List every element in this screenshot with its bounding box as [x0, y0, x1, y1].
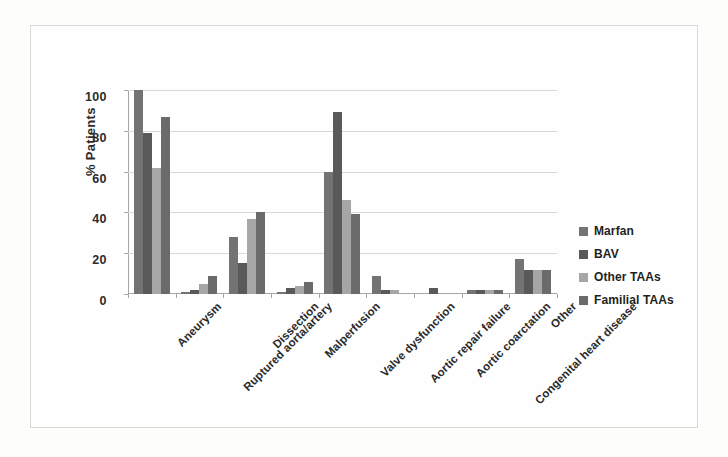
bar — [333, 112, 342, 294]
bar — [190, 290, 199, 294]
bar-group — [176, 90, 224, 294]
figure-canvas: % Patients 020406080100 AneurysmRuptured… — [0, 0, 728, 457]
legend-item: Familial TAAs — [579, 293, 674, 307]
bar-group — [128, 90, 176, 294]
bar — [494, 290, 503, 294]
bar — [372, 276, 381, 294]
bar — [429, 288, 438, 294]
bar — [485, 290, 494, 294]
plot-area: 020406080100 — [128, 90, 557, 294]
x-tick-label: Aortic coarctation — [473, 300, 552, 379]
legend-swatch-icon — [579, 273, 588, 282]
bar — [247, 219, 256, 294]
legend-swatch-icon — [579, 250, 588, 259]
legend-swatch-icon — [579, 227, 588, 236]
bar — [256, 212, 265, 294]
bar — [351, 214, 360, 294]
legend-label: Other TAAs — [594, 270, 661, 284]
bar — [324, 172, 333, 294]
x-tick-label: Ruptured aorta/artery — [241, 300, 334, 393]
bar — [286, 288, 295, 294]
x-tick — [271, 294, 272, 298]
bar — [476, 290, 485, 294]
bar — [199, 284, 208, 294]
bar-group — [414, 90, 462, 294]
legend-label: BAV — [594, 247, 619, 261]
x-tick — [176, 294, 177, 298]
bar — [533, 270, 542, 294]
bar — [181, 292, 190, 294]
x-tick-label: Aneurysm — [175, 300, 224, 349]
x-tick — [557, 294, 558, 298]
bar — [524, 270, 533, 294]
x-tick — [462, 294, 463, 298]
bar — [304, 282, 313, 294]
bar-group — [366, 90, 414, 294]
bar-group — [271, 90, 319, 294]
bar-group — [462, 90, 510, 294]
legend-item: Marfan — [579, 224, 674, 238]
bar — [467, 290, 476, 294]
chart-legend: MarfanBAVOther TAAsFamilial TAAs — [579, 224, 674, 307]
y-tick-label-100: 100 — [85, 90, 106, 104]
x-tick — [223, 294, 224, 298]
x-tick — [414, 294, 415, 298]
bar — [277, 292, 286, 294]
x-tick — [509, 294, 510, 298]
legend-label: Familial TAAs — [594, 293, 674, 307]
legend-label: Marfan — [594, 224, 634, 238]
x-tick — [128, 294, 129, 298]
bar — [229, 237, 238, 294]
x-tick-label: Other — [548, 300, 579, 331]
bar-group — [223, 90, 271, 294]
y-tick-label-20: 20 — [92, 253, 106, 267]
bar-group — [319, 90, 367, 294]
bar-group — [509, 90, 557, 294]
bar — [542, 270, 551, 294]
bar — [515, 259, 524, 294]
bar — [161, 117, 170, 294]
x-tick-label: Congenital heart disease — [532, 300, 638, 406]
y-tick-label-40: 40 — [92, 212, 106, 226]
y-tick-label-60: 60 — [92, 172, 106, 186]
bar — [134, 90, 143, 294]
bar — [390, 290, 399, 294]
legend-item: Other TAAs — [579, 270, 674, 284]
figure-frame: % Patients 020406080100 AneurysmRuptured… — [30, 25, 698, 428]
bar — [143, 133, 152, 294]
x-tick — [366, 294, 367, 298]
bar — [295, 286, 304, 294]
x-tick — [319, 294, 320, 298]
legend-item: BAV — [579, 247, 674, 261]
bar — [238, 263, 247, 294]
legend-swatch-icon — [579, 296, 588, 305]
y-tick-label-80: 80 — [92, 131, 106, 145]
bar — [342, 200, 351, 294]
y-tick-label-0: 0 — [99, 294, 106, 308]
bar — [381, 290, 390, 294]
bar — [208, 276, 217, 294]
bar — [152, 168, 161, 294]
